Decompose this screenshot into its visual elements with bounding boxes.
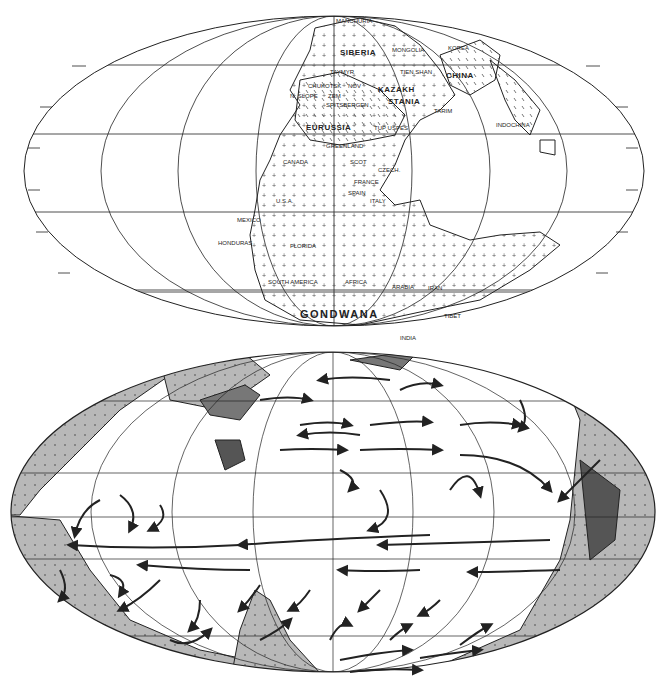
svg-text:FLORIDA: FLORIDA (290, 243, 316, 249)
svg-text:ITALY: ITALY (370, 198, 386, 204)
svg-text:INDOCHINA: INDOCHINA (496, 122, 530, 128)
graticule (0, 352, 666, 672)
ocean-currents-map-svg (0, 340, 666, 684)
svg-text:STANIA: STANIA (388, 97, 420, 106)
svg-text:TIBET: TIBET (444, 313, 461, 319)
svg-text:CHINA: CHINA (446, 71, 474, 80)
svg-text:TIEN SHAN: TIEN SHAN (400, 69, 432, 75)
pangaea-map: + MANCHURIA SIBERIA MONGOLI (0, 0, 666, 340)
svg-text:SOUTH AMERICA: SOUTH AMERICA (268, 279, 318, 285)
svg-text:CANADA: CANADA (283, 159, 308, 165)
svg-text:SPAIN: SPAIN (348, 190, 366, 196)
ocean-currents-map (0, 340, 666, 684)
svg-text:KAZAKH: KAZAKH (378, 85, 415, 94)
svg-text:TARIM: TARIM (434, 108, 452, 114)
svg-text:CHUKOTSK: CHUKOTSK (308, 83, 341, 89)
svg-text:MONGOLIA: MONGOLIA (392, 47, 424, 53)
svg-text:ZEM: ZEM (328, 93, 341, 99)
svg-text:N. SLOPE: N. SLOPE (290, 93, 318, 99)
svg-text:IRAN: IRAN (428, 285, 442, 291)
svg-text:CZECH.: CZECH. (378, 167, 401, 173)
svg-text:SCOT: SCOT (350, 159, 367, 165)
svg-text:HONDURAS: HONDURAS (218, 240, 252, 246)
svg-text:NOV: NOV (348, 83, 361, 89)
svg-text:MANCHURIA: MANCHURIA (336, 18, 372, 24)
svg-text:U.S.A.: U.S.A. (276, 198, 294, 204)
svg-text:ARABIA: ARABIA (392, 284, 414, 290)
svg-text:KOREA: KOREA (448, 45, 469, 51)
svg-text:AFRICA: AFRICA (345, 279, 367, 285)
svg-text:MEXICO: MEXICO (237, 217, 261, 223)
svg-text:FRANCE: FRANCE (354, 179, 379, 185)
svg-text:TAYMYR: TAYMYR (330, 69, 355, 75)
svg-text:EURUSSIA: EURUSSIA (306, 123, 351, 132)
svg-text:GONDWANA: GONDWANA (300, 308, 379, 320)
svg-text:SPITSBERGEN: SPITSBERGEN (326, 102, 369, 108)
svg-text:SIBERIA: SIBERIA (340, 48, 376, 57)
svg-text:TUP USPES: TUP USPES (374, 125, 408, 131)
svg-text:GREENLAND: GREENLAND (326, 143, 364, 149)
pangaea-map-svg: + MANCHURIA SIBERIA MONGOLI (0, 0, 666, 340)
